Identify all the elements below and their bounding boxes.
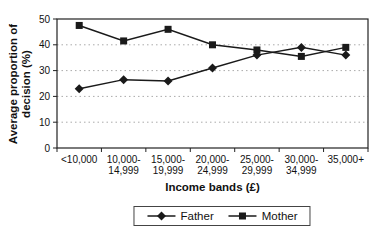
data-point-father: [341, 51, 350, 60]
y-tick-label: 50: [39, 14, 51, 25]
x-tick-label: 34,999: [286, 165, 317, 176]
x-tick-label: 14,999: [108, 165, 139, 176]
legend-label-father: Father: [180, 210, 213, 222]
data-point-mother: [253, 46, 260, 53]
data-point-father: [164, 76, 173, 85]
data-point-father: [208, 64, 217, 73]
mother-line-square-icon: [228, 211, 258, 221]
x-tick-label: 24,999: [197, 165, 228, 176]
data-point-mother: [298, 53, 305, 60]
y-tick-label: 30: [39, 65, 51, 76]
x-tick-label: 25,000-: [240, 154, 274, 165]
legend: Father Mother: [133, 206, 310, 226]
x-tick-label: 19,999: [153, 165, 184, 176]
x-tick-label: 10,000-: [107, 154, 141, 165]
y-tick-label: 20: [39, 91, 51, 102]
x-tick-label: 29,999: [242, 165, 273, 176]
data-point-mother: [209, 41, 216, 48]
data-point-father: [75, 84, 84, 93]
x-tick-label: 30,000-: [284, 154, 318, 165]
y-tick-label: 10: [39, 117, 51, 128]
data-point-father: [297, 43, 306, 52]
data-point-mother: [165, 26, 172, 33]
x-tick-label: 35,000+: [328, 154, 365, 165]
data-point-mother: [120, 37, 127, 44]
data-point-mother: [76, 22, 83, 29]
x-tick-label: 15,000-: [151, 154, 185, 165]
father-line-diamond-icon: [146, 211, 176, 221]
x-tick-label: 20,000-: [196, 154, 230, 165]
data-point-mother: [342, 44, 349, 51]
x-axis-title: Income bands (£): [57, 181, 368, 193]
data-point-father: [119, 75, 128, 84]
legend-label-mother: Mother: [262, 210, 298, 222]
chart: Average proportion of decision (%) 01020…: [0, 0, 390, 246]
y-tick-label: 0: [44, 143, 50, 154]
y-tick-label: 40: [39, 39, 51, 50]
legend-entry-father: Father: [146, 210, 213, 222]
x-tick-label: <10,000: [61, 154, 98, 165]
legend-entry-mother: Mother: [228, 210, 298, 222]
series-line-mother: [79, 25, 346, 56]
